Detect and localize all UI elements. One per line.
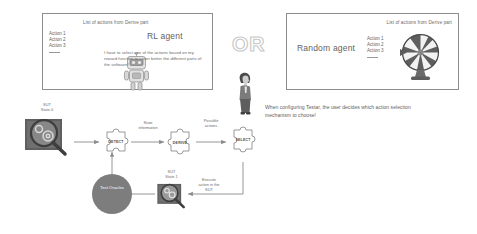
slide-canvas: List of actions from Derive part Action …	[0, 0, 477, 234]
select-step-label: SELECT	[227, 138, 259, 142]
derive-step-label: DERIVE	[164, 141, 196, 145]
rl-agent-panel: List of actions from Derive part Action …	[42, 13, 213, 90]
magnifier-over-gears-icon-1	[155, 182, 188, 209]
derive-step: DERIVE	[164, 126, 196, 158]
rl-agent-speech: I have to select one of the actions base…	[104, 50, 207, 69]
possible-actions-label: Possible actions	[196, 119, 226, 129]
list-ellipsis	[367, 54, 384, 60]
rl-action-list: Action 1 Action 2 Action 3	[49, 31, 66, 55]
rl-list-caption: List of actions from Derive part	[83, 20, 149, 25]
detect-step: DETECT	[100, 126, 132, 158]
magnifier-over-gears-icon	[22, 116, 72, 158]
or-divider-label: OR	[232, 32, 266, 56]
state-information-label: State information	[131, 121, 165, 131]
test-oracles-node: Test Oracles	[92, 185, 132, 203]
sut-state-1-label: SUT State 1	[155, 170, 188, 180]
wheel-of-fortune-icon	[398, 30, 443, 82]
list-ellipsis	[49, 49, 66, 55]
random-list-caption: List of actions from Derive part	[387, 20, 453, 25]
sut-state-0-label: SUT State 0	[30, 103, 64, 113]
random-agent-title: Random agent	[297, 43, 355, 53]
detect-step-label: DETECT	[100, 140, 132, 144]
select-step: SELECT	[227, 124, 259, 156]
random-action-list: Action 1 Action 2 Action 3	[367, 36, 384, 60]
execute-action-label: Execute action in the SUT	[190, 178, 228, 192]
test-oracles-label: Test Oracles	[92, 185, 132, 191]
rl-agent-title: RL agent	[147, 31, 183, 41]
